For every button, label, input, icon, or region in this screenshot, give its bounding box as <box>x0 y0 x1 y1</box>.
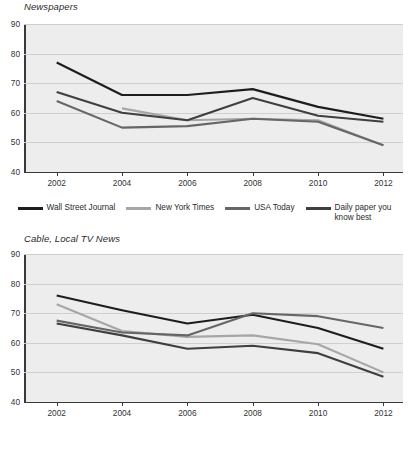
legend-swatch-icon <box>306 207 331 210</box>
x-tick-label: 2006 <box>178 408 196 418</box>
x-tick-mark <box>383 172 384 176</box>
y-tick-label: 90 <box>0 20 20 28</box>
y-tick-label: 80 <box>0 280 20 288</box>
x-tick-label: 2002 <box>47 178 65 188</box>
x-tick-mark <box>253 172 254 176</box>
y-tick-label: 50 <box>0 368 20 376</box>
x-tick-mark <box>187 402 188 406</box>
x-tick-label: 2010 <box>309 178 327 188</box>
x-tick-label: 2004 <box>113 408 131 418</box>
x-tick-mark <box>57 402 58 406</box>
y-tick-label: 60 <box>0 339 20 347</box>
legend-item[interactable]: Daily paper you know best <box>306 203 392 222</box>
legend-label: USA Today <box>254 203 294 213</box>
x-axis-line-newspapers <box>24 172 403 173</box>
x-tick-label: 2008 <box>243 408 261 418</box>
legend-newspapers: Wall Street JournalNew York TimesUSA Tod… <box>0 203 409 222</box>
chart-title-cable: Cable, Local TV News <box>24 233 120 244</box>
x-tick-mark <box>253 402 254 406</box>
x-tick-mark <box>383 402 384 406</box>
legend-swatch-icon <box>18 207 43 210</box>
x-tick-mark <box>187 172 188 176</box>
y-tick-label: 70 <box>0 79 20 87</box>
data-lines-cable <box>24 254 403 402</box>
x-tick-mark <box>318 402 319 406</box>
x-tick-label: 2012 <box>374 178 392 188</box>
x-tick-label: 2008 <box>243 178 261 188</box>
y-tick-label: 60 <box>0 109 20 117</box>
x-tick-label: 2012 <box>374 408 392 418</box>
y-tick-label: 90 <box>0 250 20 258</box>
x-axis-line-cable <box>24 402 403 403</box>
plot-wrapper-newspapers: 405060708090 200220042006200820102012 <box>0 24 409 190</box>
x-tick-mark <box>122 402 123 406</box>
series-line <box>57 92 384 122</box>
chart-panel-newspapers: Newspapers 405060708090 2002200420062008… <box>0 0 409 232</box>
y-tick-label: 50 <box>0 138 20 146</box>
y-tick-label: 70 <box>0 309 20 317</box>
legend-item[interactable]: Wall Street Journal <box>18 203 116 213</box>
series-line <box>57 304 384 372</box>
legend-item[interactable]: New York Times <box>126 203 214 213</box>
y-tick-label: 40 <box>0 398 20 406</box>
x-tick-mark <box>318 172 319 176</box>
x-tick-label: 2010 <box>309 408 327 418</box>
legend-item[interactable]: USA Today <box>225 203 294 213</box>
data-lines-newspapers <box>24 24 403 172</box>
x-tick-label: 2004 <box>113 178 131 188</box>
y-tick-label: 80 <box>0 50 20 58</box>
x-tick-label: 2006 <box>178 178 196 188</box>
series-line <box>57 295 384 348</box>
legend-label: Wall Street Journal <box>47 203 116 213</box>
x-tick-label: 2002 <box>47 408 65 418</box>
legend-label: New York Times <box>155 203 214 213</box>
series-line <box>57 62 384 118</box>
chart-panel-cable: Cable, Local TV News 405060708090 200220… <box>0 232 409 451</box>
x-tick-mark <box>57 172 58 176</box>
chart-title-newspapers: Newspapers <box>24 1 78 12</box>
figure-root: Newspapers 405060708090 2002200420062008… <box>0 0 409 451</box>
x-tick-mark <box>122 172 123 176</box>
legend-swatch-icon <box>126 207 151 210</box>
legend-swatch-icon <box>225 207 250 210</box>
y-tick-label: 40 <box>0 168 20 176</box>
legend-label: Daily paper you know best <box>335 203 392 222</box>
plot-wrapper-cable: 405060708090 200220042006200820102012 <box>0 254 409 420</box>
